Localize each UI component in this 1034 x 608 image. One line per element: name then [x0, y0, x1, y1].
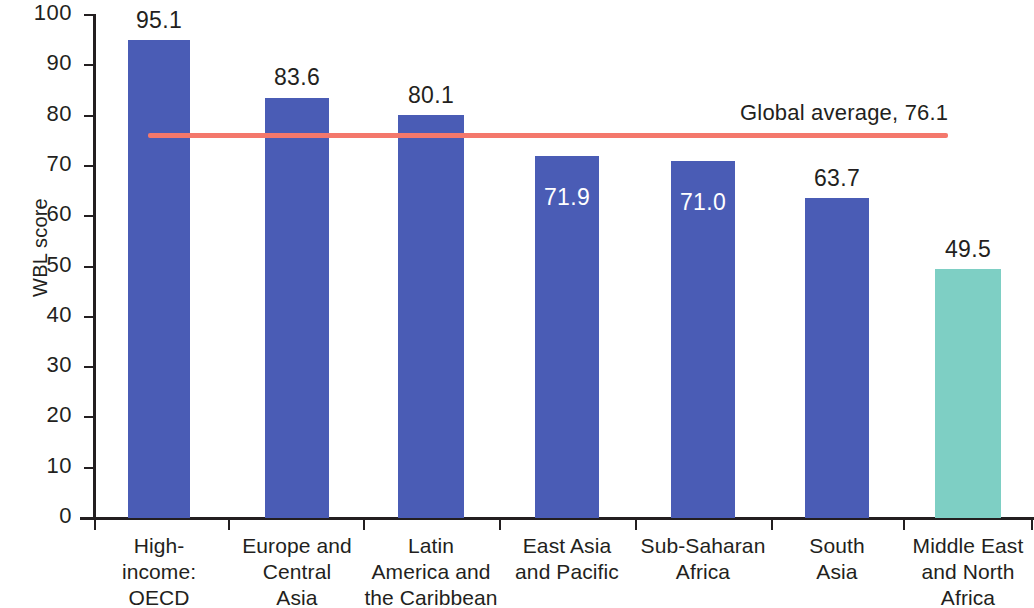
- y-axis-tick: [84, 115, 96, 117]
- x-axis-category-label: SouthAsia: [767, 533, 907, 585]
- category-label-line: South: [767, 533, 907, 559]
- category-label-line: the Caribbean: [331, 585, 531, 608]
- y-axis-tick: [84, 266, 96, 268]
- y-axis-tick: [84, 467, 96, 469]
- y-axis-tick: [84, 366, 96, 368]
- y-axis-tick: [84, 316, 96, 318]
- x-axis-tick: [228, 519, 230, 530]
- y-axis-tick-label: 30: [14, 352, 72, 378]
- y-axis-tick: [84, 215, 96, 217]
- bar-value-label: 63.7: [775, 165, 899, 192]
- global-average-label: Global average, 76.1: [740, 100, 948, 126]
- bar-value-label: 71.9: [505, 184, 629, 211]
- y-axis-tick: [84, 416, 96, 418]
- x-axis-tick: [771, 519, 773, 530]
- category-label-line: Africa: [616, 559, 791, 585]
- x-axis-tick: [94, 519, 96, 530]
- bar: [805, 198, 869, 518]
- y-axis-tick-label: 90: [14, 50, 72, 76]
- x-axis-tick: [635, 519, 637, 530]
- bar-value-label: 95.1: [98, 7, 220, 34]
- bar: [128, 40, 190, 518]
- bar: [935, 269, 1001, 518]
- bar: [398, 115, 464, 518]
- bar-chart: WBL score 1009080706050403020100 95.183.…: [0, 0, 1034, 608]
- y-axis-tick-label: 100: [14, 0, 72, 26]
- category-label-line: and North: [896, 559, 1034, 585]
- y-axis-tick-label: 40: [14, 302, 72, 328]
- y-axis-tick-label: 10: [14, 453, 72, 479]
- bar-value-label: 71.0: [641, 189, 765, 216]
- x-axis-category-label: Middle Eastand NorthAfrica: [896, 533, 1034, 608]
- y-axis-tick-label: 20: [14, 402, 72, 428]
- global-average-line: [148, 133, 948, 138]
- x-axis-tick: [1031, 519, 1033, 530]
- category-label-line: Asia: [767, 559, 907, 585]
- category-label-line: Middle East: [896, 533, 1034, 559]
- y-axis-tick: [84, 64, 96, 66]
- x-axis-category-label: Sub-SaharanAfrica: [616, 533, 791, 585]
- bar-value-label: 83.6: [235, 64, 359, 91]
- x-axis-tick: [903, 519, 905, 530]
- y-axis-tick-label: 80: [14, 101, 72, 127]
- x-axis-tick: [499, 519, 501, 530]
- y-axis-tick: [84, 165, 96, 167]
- y-axis-tick: [84, 14, 96, 16]
- category-label-line: Africa: [896, 585, 1034, 608]
- bar-value-label: 80.1: [368, 82, 494, 109]
- y-axis-tick-label: 50: [14, 252, 72, 278]
- bar-value-label: 49.5: [905, 236, 1031, 263]
- x-axis-tick: [363, 519, 365, 530]
- category-label-line: Sub-Saharan: [616, 533, 791, 559]
- bar: [265, 98, 329, 519]
- y-axis-tick-label: 60: [14, 201, 72, 227]
- y-axis-tick-label: 70: [14, 151, 72, 177]
- y-axis-tick-label: 0: [14, 503, 72, 529]
